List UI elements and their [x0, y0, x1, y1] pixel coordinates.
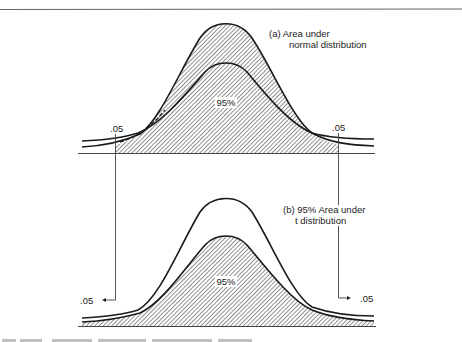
panel-a-normal: 95% .05 .05 (a) Area under normal distri… [78, 24, 375, 154]
top-rule [0, 9, 462, 10]
panel-b-center-label: 95% [217, 276, 237, 287]
left-arrowhead [102, 298, 106, 302]
left-connector [105, 134, 116, 300]
panel-a-right-tail-label: .05 [332, 122, 345, 133]
distribution-diagram: 95% .05 .05 (a) Area under normal distri… [0, 0, 462, 342]
right-arrowhead [347, 296, 351, 300]
panel-a-center-label: 95% [217, 97, 237, 108]
panel-b-right-tail-label: .05 [360, 293, 373, 304]
panel-a-left-tail-label: .05 [110, 123, 123, 134]
panel-b-label-line1: (b) 95% Area under [283, 204, 365, 215]
panel-a-label-line2: normal distribution [289, 39, 367, 50]
panel-b-label-line2: t distribution [295, 215, 346, 226]
panel-b-t: 95% .05 .05 (b) 95% Area under t distrib… [78, 198, 376, 326]
panel-a-label-line1: (a) Area under [269, 28, 330, 39]
panel-b-left-tail-label: .05 [80, 295, 93, 306]
